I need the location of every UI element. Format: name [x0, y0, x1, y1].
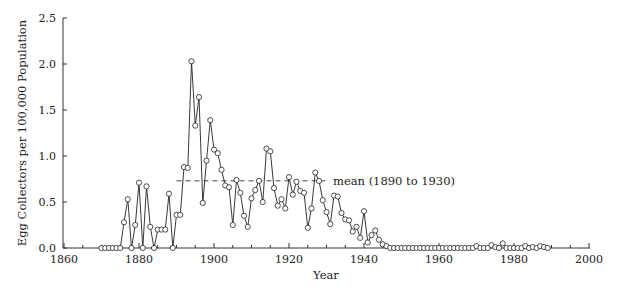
data-point-marker: [496, 245, 501, 250]
data-point-marker: [148, 224, 153, 229]
data-point-marker: [309, 206, 314, 211]
data-point-marker: [185, 165, 190, 170]
data-point-marker: [316, 178, 321, 183]
data-point-marker: [358, 235, 363, 240]
x-axis-label: Year: [312, 268, 339, 282]
data-point-marker: [361, 209, 366, 214]
data-point-marker: [196, 95, 201, 100]
data-point-marker: [204, 158, 209, 163]
y-tick-label: 1.5: [39, 104, 57, 117]
data-point-marker: [271, 186, 276, 191]
data-point-marker: [163, 227, 168, 232]
data-point-marker: [268, 149, 273, 154]
data-point-marker: [166, 191, 171, 196]
data-point-marker: [133, 222, 138, 227]
data-point-marker: [178, 212, 183, 217]
data-point-marker: [354, 224, 359, 229]
data-point-marker: [136, 180, 141, 185]
data-point-marker: [500, 241, 505, 246]
data-point-marker: [118, 245, 123, 250]
data-point-marker: [260, 199, 265, 204]
data-point-marker: [328, 221, 333, 226]
data-point-marker: [121, 220, 126, 225]
data-point-marker: [241, 213, 246, 218]
x-tick-label: 1920: [275, 253, 303, 266]
x-tick-label: 1900: [200, 253, 228, 266]
data-point-marker: [305, 225, 310, 230]
x-tick-label: 1860: [50, 253, 78, 266]
data-point-marker: [140, 245, 145, 250]
data-point-marker: [365, 240, 370, 245]
data-point-marker: [151, 245, 156, 250]
data-point-marker: [290, 192, 295, 197]
data-point-marker: [313, 170, 318, 175]
data-point-marker: [376, 237, 381, 242]
data-point-marker: [189, 59, 194, 64]
mean-annotation: mean (1890 to 1930): [333, 174, 455, 188]
data-point-marker: [279, 197, 284, 202]
data-point-marker: [144, 184, 149, 189]
data-point-marker: [301, 190, 306, 195]
y-tick-label: 2.0: [39, 58, 57, 71]
data-point-marker: [230, 222, 235, 227]
data-point-marker: [545, 245, 550, 250]
data-point-marker: [200, 200, 205, 205]
x-tick-label: 1940: [350, 253, 378, 266]
data-point-marker: [125, 197, 130, 202]
data-point-marker: [256, 178, 261, 183]
data-point-marker: [208, 118, 213, 123]
y-tick-label: 0.5: [39, 196, 57, 209]
data-point-marker: [215, 151, 220, 156]
data-point-marker: [369, 233, 374, 238]
chart: 0.00.51.01.52.02.5 186018801900192019401…: [0, 0, 623, 293]
data-point-marker: [226, 185, 231, 190]
data-point-marker: [373, 228, 378, 233]
data-point-marker: [350, 229, 355, 234]
data-point-marker: [335, 194, 340, 199]
data-point-marker: [294, 179, 299, 184]
data-point-marker: [219, 167, 224, 172]
x-tick-label: 1980: [500, 253, 528, 266]
y-tick-label: 1.0: [39, 150, 57, 163]
data-point-marker: [245, 224, 250, 229]
data-point-marker: [320, 198, 325, 203]
data-point-marker: [234, 177, 239, 182]
data-point-marker: [253, 187, 258, 192]
data-point-marker: [170, 245, 175, 250]
series-line: [102, 61, 548, 248]
data-point-marker: [339, 210, 344, 215]
data-point-marker: [249, 196, 254, 201]
data-series: [99, 59, 550, 251]
data-point-marker: [324, 210, 329, 215]
data-point-marker: [129, 245, 134, 250]
y-tick-label: 2.5: [39, 12, 57, 25]
x-tick-label: 2000: [575, 253, 603, 266]
x-tick-label: 1880: [125, 253, 153, 266]
data-point-marker: [286, 175, 291, 180]
data-point-marker: [346, 218, 351, 223]
x-tick-label: 1960: [425, 253, 453, 266]
data-point-marker: [238, 190, 243, 195]
data-point-marker: [193, 123, 198, 128]
data-point-marker: [275, 203, 280, 208]
y-axis-label: Egg Collectors per 100,000 Population: [15, 19, 29, 246]
data-point-marker: [283, 206, 288, 211]
